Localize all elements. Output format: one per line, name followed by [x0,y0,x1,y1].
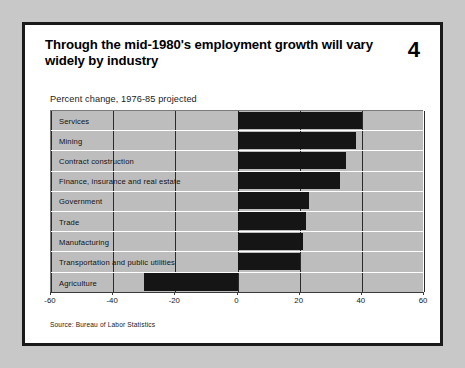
bar [238,172,341,189]
tick-label: -20 [169,296,180,305]
bar-row-label: Manufacturing [59,237,109,246]
bar-row: Finance, insurance and real estate [51,172,423,192]
bar-rows: ServicesMiningContract constructionFinan… [51,111,423,292]
bar-row-label: Trade [59,217,79,226]
slide-number: 4 [408,37,420,63]
chart-plot-area: ServicesMiningContract constructionFinan… [50,110,423,292]
tick-mark [299,292,300,295]
tick-label: 20 [294,296,303,305]
slide-frame: Through the mid-1980's employment growth… [22,22,443,346]
x-axis-ticks: -60-40-200204060 [50,292,423,308]
tick-label: -40 [107,296,118,305]
bar [238,132,356,149]
bar-row-label: Government [59,197,102,206]
tick-label: 0 [234,296,238,305]
bar-row-label: Services [59,116,89,125]
bar [238,233,303,250]
tick-mark [423,292,424,295]
chart-subtitle: Percent change, 1976-85 projected [50,94,197,104]
bar-row: Trade [51,212,423,232]
source-note: Source: Bureau of Labor Statistics [50,321,155,328]
tick-mark [174,292,175,295]
tick-mark [361,292,362,295]
bar [144,273,237,291]
bar-row: Government [51,192,423,212]
bar-row: Agriculture [51,273,423,293]
bar-row: Manufacturing [51,232,423,252]
tick-mark [112,292,113,295]
page-title: Through the mid-1980's employment growth… [45,37,375,69]
bar-row-label: Contract construction [59,156,134,165]
bar-row: Contract construction [51,151,423,171]
tick-label: 60 [419,296,428,305]
bar [238,112,362,129]
bar-row: Mining [51,131,423,151]
bar [238,152,347,169]
bar-row-label: Finance, insurance and real estate [59,177,181,186]
tick-mark [237,292,238,295]
tick-label: 40 [356,296,365,305]
gridline-60 [424,111,425,292]
bar-row: Services [51,111,423,131]
bar [238,192,309,209]
bar-row-label: Agriculture [59,278,97,287]
bar [238,253,300,270]
tick-label: -60 [44,296,55,305]
tick-mark [50,292,51,295]
bar [238,212,306,229]
slide-header: Through the mid-1980's employment growth… [45,37,426,85]
bar-row: Transportation and public utilities [51,252,423,272]
bar-row-label: Transportation and public utilities [59,257,175,266]
bar-row-label: Mining [59,136,82,145]
